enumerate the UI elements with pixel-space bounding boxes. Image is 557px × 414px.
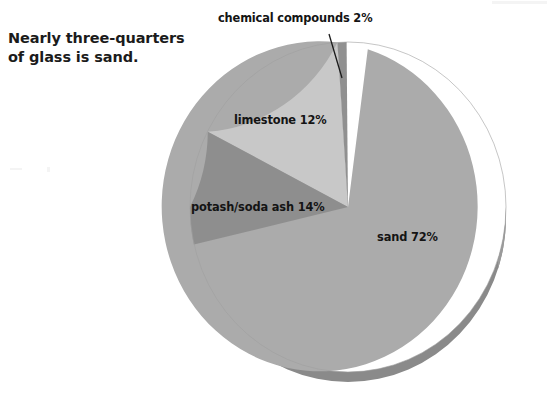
scan-artifact-mid [47,167,50,172]
pie-chart-graphic: chemical compounds 2% sand 72% potash/so… [0,0,557,414]
pie-label-sand: sand 72% [377,230,438,244]
scan-artifact-left [10,168,22,170]
pie-label-potash-soda-ash: potash/soda ash 14% [191,200,325,214]
pie-chart-figure: Nearly three-quarters of glass is sand. [0,0,557,414]
pie-label-limestone: limestone 12% [234,113,327,127]
pie-label-chemical-compounds: chemical compounds 2% [218,11,373,25]
scan-artifact-top-right [492,1,547,4]
